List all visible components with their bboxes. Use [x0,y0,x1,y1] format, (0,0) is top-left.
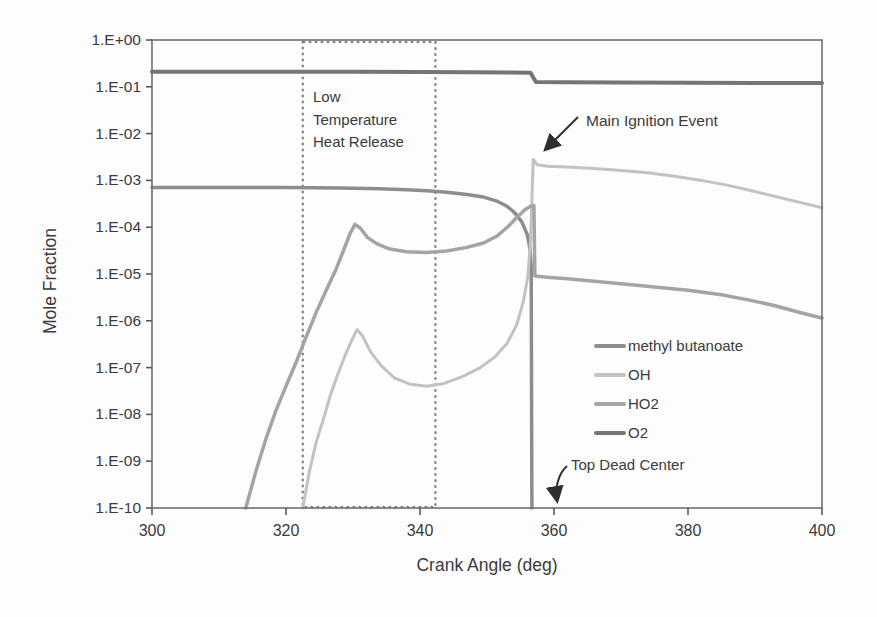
x-tick-label: 380 [658,521,718,541]
legend-label: OH [628,366,651,383]
curve-o2 [152,72,822,83]
legend-line-sample-icon [594,373,626,377]
legend-item-oh: OH [594,360,743,389]
y-tick-label: 1.E-04 [0,217,141,237]
top-dead-center-arrow-icon [556,466,567,500]
x-tick-label: 320 [256,521,316,541]
annotation-top-dead-center: Top Dead Center [571,456,684,473]
annotation-low-temperature-heat-release: Low Temperature Heat Release [313,86,404,154]
y-tick-label: 1.E-01 [0,77,141,97]
chart-figure: Mole Fraction Crank Angle (deg) 1.E+001.… [0,0,877,617]
y-tick-label: 1.E-07 [0,358,141,378]
y-tick-label: 1.E-05 [0,264,141,284]
y-tick-label: 1.E-02 [0,124,141,144]
x-tick-label: 340 [390,521,450,541]
legend-line-sample-icon [594,431,626,435]
legend-label: O2 [628,424,648,441]
legend-item-ho2: HO2 [594,389,743,418]
y-tick-label: 1.E-10 [0,498,141,518]
legend-item-methyl-butanoate: methyl butanoate [594,331,743,360]
annotation-main-ignition-event: Main Ignition Event [586,112,718,130]
x-tick-label: 300 [122,521,182,541]
legend-line-sample-icon [594,402,626,406]
x-tick-label: 360 [524,521,584,541]
x-axis-title: Crank Angle (deg) [287,555,687,576]
y-tick-label: 1.E-09 [0,451,141,471]
main-ignition-arrow-icon [546,117,578,149]
legend-label: HO2 [628,395,659,412]
curve-methyl-butanoate [152,188,532,508]
y-tick-label: 1.E-08 [0,404,141,424]
legend-item-o2: O2 [594,418,743,447]
y-tick-label: 1.E-06 [0,311,141,331]
legend-line-sample-icon [594,344,626,348]
x-tick-label: 400 [792,521,852,541]
legend-label: methyl butanoate [628,337,743,354]
curve-oh [303,160,822,509]
y-tick-label: 1.E+00 [0,30,141,50]
legend: methyl butanoateOHHO2O2 [594,331,743,447]
y-tick-label: 1.E-03 [0,170,141,190]
